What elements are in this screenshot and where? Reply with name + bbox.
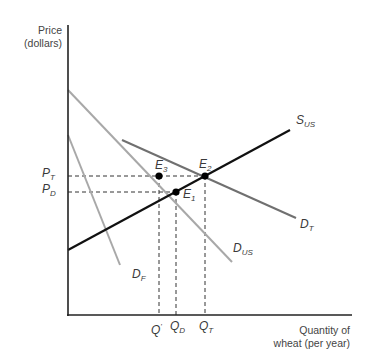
- e2-label: E2: [199, 158, 211, 175]
- supply-us-label: SUS: [296, 114, 315, 131]
- e1-point: [172, 188, 179, 195]
- e3-label: E3: [155, 159, 167, 176]
- demand-us-label: DUS: [233, 242, 253, 259]
- diagram-canvas: [0, 0, 373, 358]
- qprime-label: Q': [151, 320, 162, 337]
- qt-label: QT: [199, 320, 213, 337]
- supply-us-curve: [68, 130, 290, 250]
- x-axis-title-line2: wheat (per year): [270, 337, 350, 350]
- demand-foreign-label: DF: [132, 268, 146, 285]
- e1-label: E1: [183, 188, 195, 205]
- pd-label: PD: [42, 183, 56, 200]
- x-axis-title: Quantity of wheat (per year): [270, 324, 350, 350]
- qd-label: QD: [170, 320, 185, 337]
- y-axis-title: Price (dollars): [14, 24, 62, 50]
- x-axis-title-line1: Quantity of: [270, 324, 350, 337]
- y-axis-title-line1: Price: [14, 24, 62, 37]
- demand-total-label: DT: [300, 218, 314, 235]
- y-axis-title-line2: (dollars): [14, 37, 62, 50]
